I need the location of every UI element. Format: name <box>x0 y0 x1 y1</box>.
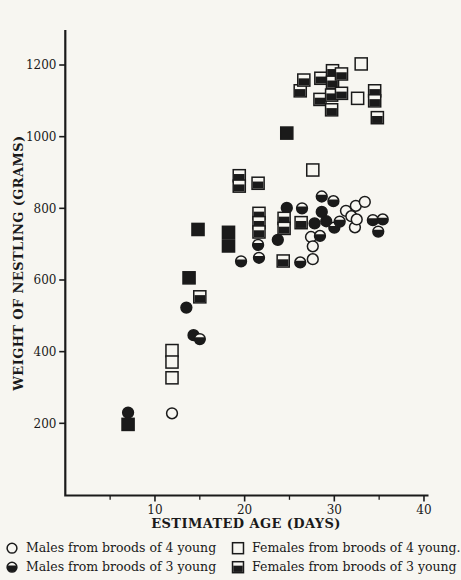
legend-item-half-square: Females from broods of 3 young <box>231 557 461 576</box>
data-point-half-square <box>315 72 327 84</box>
data-point-half-circle <box>309 218 320 229</box>
data-point-half-square <box>233 180 245 192</box>
data-point-half-square <box>222 240 234 252</box>
y-tick-label: 1000 <box>26 130 57 144</box>
data-point-half-circle <box>236 256 247 267</box>
data-point-half-circle <box>315 231 326 242</box>
data-point-half-circle <box>377 214 388 225</box>
data-point-half-square <box>194 291 206 303</box>
half-circle-icon <box>5 560 19 574</box>
scatter-plot: 2004006008001000120010203040ESTIMATED AG… <box>0 0 445 534</box>
y-tick-label: 200 <box>34 417 57 431</box>
data-point-open-square <box>355 58 367 70</box>
plot-canvas: 2004006008001000120010203040ESTIMATED AG… <box>0 0 445 534</box>
data-point-half-square <box>371 112 383 124</box>
legend-item-open-circle: Males from broods of 4 young <box>5 538 231 557</box>
x-tick-label: 10 <box>147 503 162 517</box>
data-point-open-square <box>352 92 364 104</box>
legend-label-2: Females from broods of 4 young. <box>252 540 461 555</box>
data-point-open-circle <box>167 408 178 419</box>
data-point-open-square <box>166 372 178 384</box>
data-point-half-square <box>335 87 347 99</box>
data-point-half-circle <box>253 239 264 250</box>
x-axis-title: ESTIMATED AGE (DAYS) <box>151 516 341 531</box>
data-point-open-circle <box>307 241 318 252</box>
data-point-half-circle <box>297 203 308 214</box>
open-square-icon <box>231 541 245 555</box>
data-point-half-square <box>253 226 265 238</box>
data-point-half-square <box>277 255 289 267</box>
data-point-half-square <box>278 222 290 234</box>
data-point-half-circle <box>316 191 327 202</box>
data-point-half-circle <box>194 334 205 345</box>
data-point-half-square <box>281 127 293 139</box>
x-tick-label: 20 <box>237 503 252 517</box>
data-point-half-circle <box>181 302 192 313</box>
data-point-half-square <box>183 272 195 284</box>
y-axis-title: WEIGHT OF NESTLING (GRAMS) <box>11 135 26 391</box>
legend-item-open-square: Females from broods of 4 young. <box>231 538 461 557</box>
data-point-half-circle <box>334 216 345 227</box>
y-tick-label: 800 <box>34 202 57 216</box>
data-point-half-circle <box>272 234 283 245</box>
half-square-icon <box>231 560 245 574</box>
data-point-half-square <box>295 217 307 229</box>
data-point-half-circle <box>123 407 134 418</box>
data-point-half-circle <box>373 226 384 237</box>
data-point-half-square <box>326 104 338 116</box>
data-point-open-circle <box>351 214 362 225</box>
data-point-half-square <box>369 95 381 107</box>
data-point-half-square <box>252 177 264 189</box>
x-tick-label: 40 <box>416 503 431 517</box>
legend-label-1: Males from broods of 3 young <box>26 559 216 574</box>
data-point-half-circle <box>328 196 339 207</box>
plot-legend: Males from broods of 4 youngMales from b… <box>5 538 443 576</box>
data-point-half-square <box>122 418 134 430</box>
data-point-half-square <box>222 226 234 238</box>
data-point-open-square <box>307 164 319 176</box>
data-point-open-circle <box>307 254 318 265</box>
data-point-half-square <box>314 93 326 105</box>
y-tick-label: 600 <box>34 273 57 287</box>
legend-item-half-circle: Males from broods of 3 young <box>5 557 231 576</box>
data-point-open-square <box>166 345 178 357</box>
x-tick-label: 30 <box>327 503 342 517</box>
data-point-half-circle <box>254 252 265 263</box>
data-point-half-square <box>192 223 204 235</box>
data-point-open-circle <box>359 196 370 207</box>
data-point-half-square <box>298 74 310 86</box>
open-circle-icon <box>5 541 19 555</box>
data-point-half-circle <box>295 257 306 268</box>
legend-label-3: Females from broods of 3 young <box>252 559 457 574</box>
data-point-open-square <box>166 356 178 368</box>
y-tick-label: 1200 <box>26 58 57 72</box>
y-tick-label: 400 <box>34 345 57 359</box>
data-point-half-square <box>335 68 347 80</box>
legend-label-0: Males from broods of 4 young <box>26 540 216 555</box>
